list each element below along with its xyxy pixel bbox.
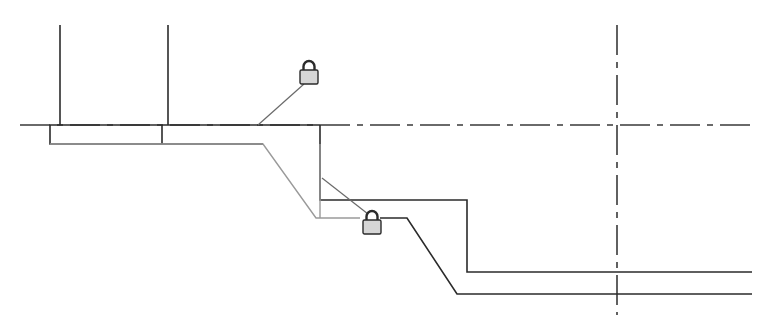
profile-sketch: [0, 0, 775, 324]
footing[interactable]: [50, 125, 320, 144]
diagram-canvas: [0, 0, 775, 324]
lower-step-profile[interactable]: [380, 218, 752, 294]
upper-step-profile[interactable]: [320, 125, 752, 272]
profile-lines: [50, 125, 752, 294]
wall-lines: [60, 25, 168, 125]
lock-leader-bottom: [322, 178, 368, 214]
lock-body-icon: [300, 70, 318, 84]
lock-leader-top: [258, 84, 304, 125]
footing-outline: [50, 125, 320, 144]
lock-body-icon: [363, 220, 381, 234]
lock-icon-bottom[interactable]: [363, 211, 381, 234]
lock-icon-top[interactable]: [300, 61, 318, 84]
gray-slope-profile[interactable]: [50, 144, 360, 218]
